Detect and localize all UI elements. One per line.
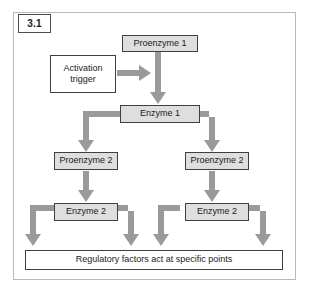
activation-trigger-line-1: Activation xyxy=(63,63,102,73)
arrow-enzyme2-left-to-regulatory-a xyxy=(25,205,54,246)
node-proenzyme-1[interactable]: Proenzyme 1 xyxy=(122,35,198,52)
arrow-enzyme2-right-to-regulatory-b xyxy=(249,205,271,246)
node-proenzyme-2-left[interactable]: Proenzyme 2 xyxy=(54,152,118,170)
node-activation-trigger[interactable]: Activation trigger xyxy=(50,55,116,93)
arrow-proenzyme1-to-enzyme1 xyxy=(150,52,166,104)
node-proenzyme-2-right[interactable]: Proenzyme 2 xyxy=(185,152,249,170)
arrow-enzyme1-to-proenzyme2-left xyxy=(78,111,120,152)
activation-trigger-label: Activation trigger xyxy=(63,63,102,86)
figure-root: 3.1 xyxy=(0,0,309,293)
node-enzyme-1[interactable]: Enzyme 1 xyxy=(120,105,200,123)
arrow-proenzyme2-right-to-enzyme2-right xyxy=(204,171,220,202)
arrow-proenzyme2-left-to-enzyme2-left xyxy=(78,171,94,202)
arrow-enzyme2-right-to-regulatory-a xyxy=(153,205,180,246)
node-enzyme-2-left[interactable]: Enzyme 2 xyxy=(54,203,118,221)
activation-trigger-line-2: trigger xyxy=(70,74,96,84)
node-enzyme-2-right[interactable]: Enzyme 2 xyxy=(185,203,249,221)
figure-number-label: 3.1 xyxy=(18,14,51,33)
node-regulatory-factors[interactable]: Regulatory factors act at specific point… xyxy=(25,250,283,270)
arrow-activation-trigger-to-proenzyme1 xyxy=(117,65,151,81)
arrow-enzyme2-left-to-regulatory-b xyxy=(118,205,139,246)
arrow-enzyme1-to-proenzyme2-right xyxy=(200,111,220,152)
